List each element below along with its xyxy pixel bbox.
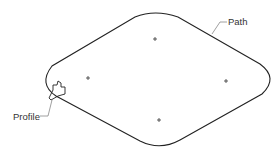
path-leader <box>212 22 227 34</box>
center-markers <box>86 37 228 122</box>
profile-leader <box>40 100 52 116</box>
profile-label: Profile <box>13 112 40 122</box>
path-label: Path <box>228 17 248 27</box>
sweep-path-outline <box>46 13 270 146</box>
